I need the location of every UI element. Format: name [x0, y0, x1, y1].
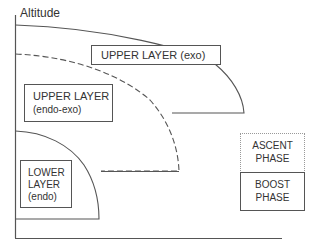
lower-endo-label-line3: (endo) — [28, 191, 71, 203]
ascent-phase-line1: ASCENT — [241, 140, 304, 152]
lower-endo-label-line2: LAYER — [28, 179, 71, 191]
boost-phase-line1: BOOST — [241, 179, 304, 191]
lower-endo-label-line1: LOWER — [28, 167, 71, 179]
upper-endo-exo-label-line1: UPPER LAYER — [33, 90, 112, 102]
upper-exo-label: UPPER LAYER (exo) — [101, 49, 220, 61]
boost-phase-box: BOOST PHASE — [240, 172, 305, 211]
y-axis-label: Altitude — [20, 6, 60, 20]
upper-endo-exo-box: UPPER LAYER (endo-exo) — [24, 84, 113, 122]
ascent-phase-line2: PHASE — [241, 153, 304, 165]
boost-phase-line2: PHASE — [241, 192, 304, 204]
upper-exo-box: UPPER LAYER (exo) — [91, 45, 221, 65]
lower-endo-box: LOWER LAYER (endo) — [20, 160, 72, 208]
upper-endo-exo-label-line2: (endo-exo) — [33, 104, 112, 116]
ascent-phase-box: ASCENT PHASE — [240, 133, 305, 173]
